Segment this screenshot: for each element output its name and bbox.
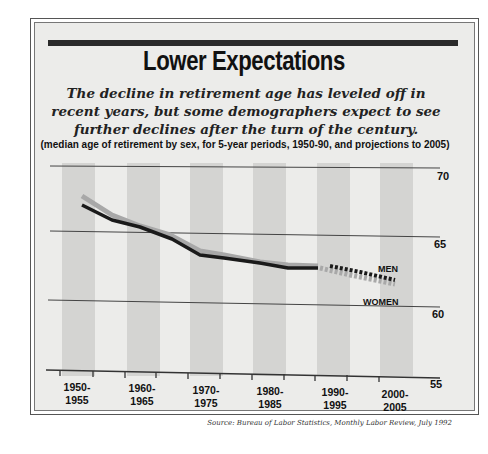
x-tick-1980: 1980-1985: [248, 385, 292, 411]
x-tick-end: 1955: [55, 394, 99, 407]
x-tick-end: 1965: [120, 395, 164, 408]
x-tick-end: 2005: [373, 401, 417, 414]
source-note: Source: Bureau of Labor Statistics, Mont…: [207, 419, 452, 427]
x-tick-end: 1975: [184, 397, 228, 410]
y-tick-65: 65: [434, 238, 446, 250]
x-tick-1960: 1960-1965: [120, 382, 164, 408]
x-tick-start: 1990-: [313, 386, 357, 399]
women-label: WOMEN: [363, 297, 399, 307]
x-tick-end: 1995: [313, 399, 357, 412]
y-tick-70: 70: [437, 170, 449, 182]
x-tick-start: 2000-: [373, 388, 417, 401]
men-label: MEN: [378, 264, 398, 274]
x-tick-start: 1960-: [120, 382, 164, 395]
x-tick-start: 1970-: [184, 384, 228, 397]
y-tick-60: 60: [432, 308, 444, 320]
x-tick-2000: 2000-2005: [373, 388, 417, 414]
x-tick-1970: 1970-1975: [184, 384, 228, 410]
period-bands: [62, 163, 413, 376]
x-tick-1990: 1990-1995: [313, 386, 357, 412]
y-tick-55: 55: [430, 378, 442, 390]
x-tick-end: 1985: [248, 398, 292, 411]
x-tick-start: 1980-: [248, 385, 292, 398]
x-tick-start: 1950-: [55, 381, 99, 394]
x-tick-1950: 1950-1955: [55, 381, 99, 407]
